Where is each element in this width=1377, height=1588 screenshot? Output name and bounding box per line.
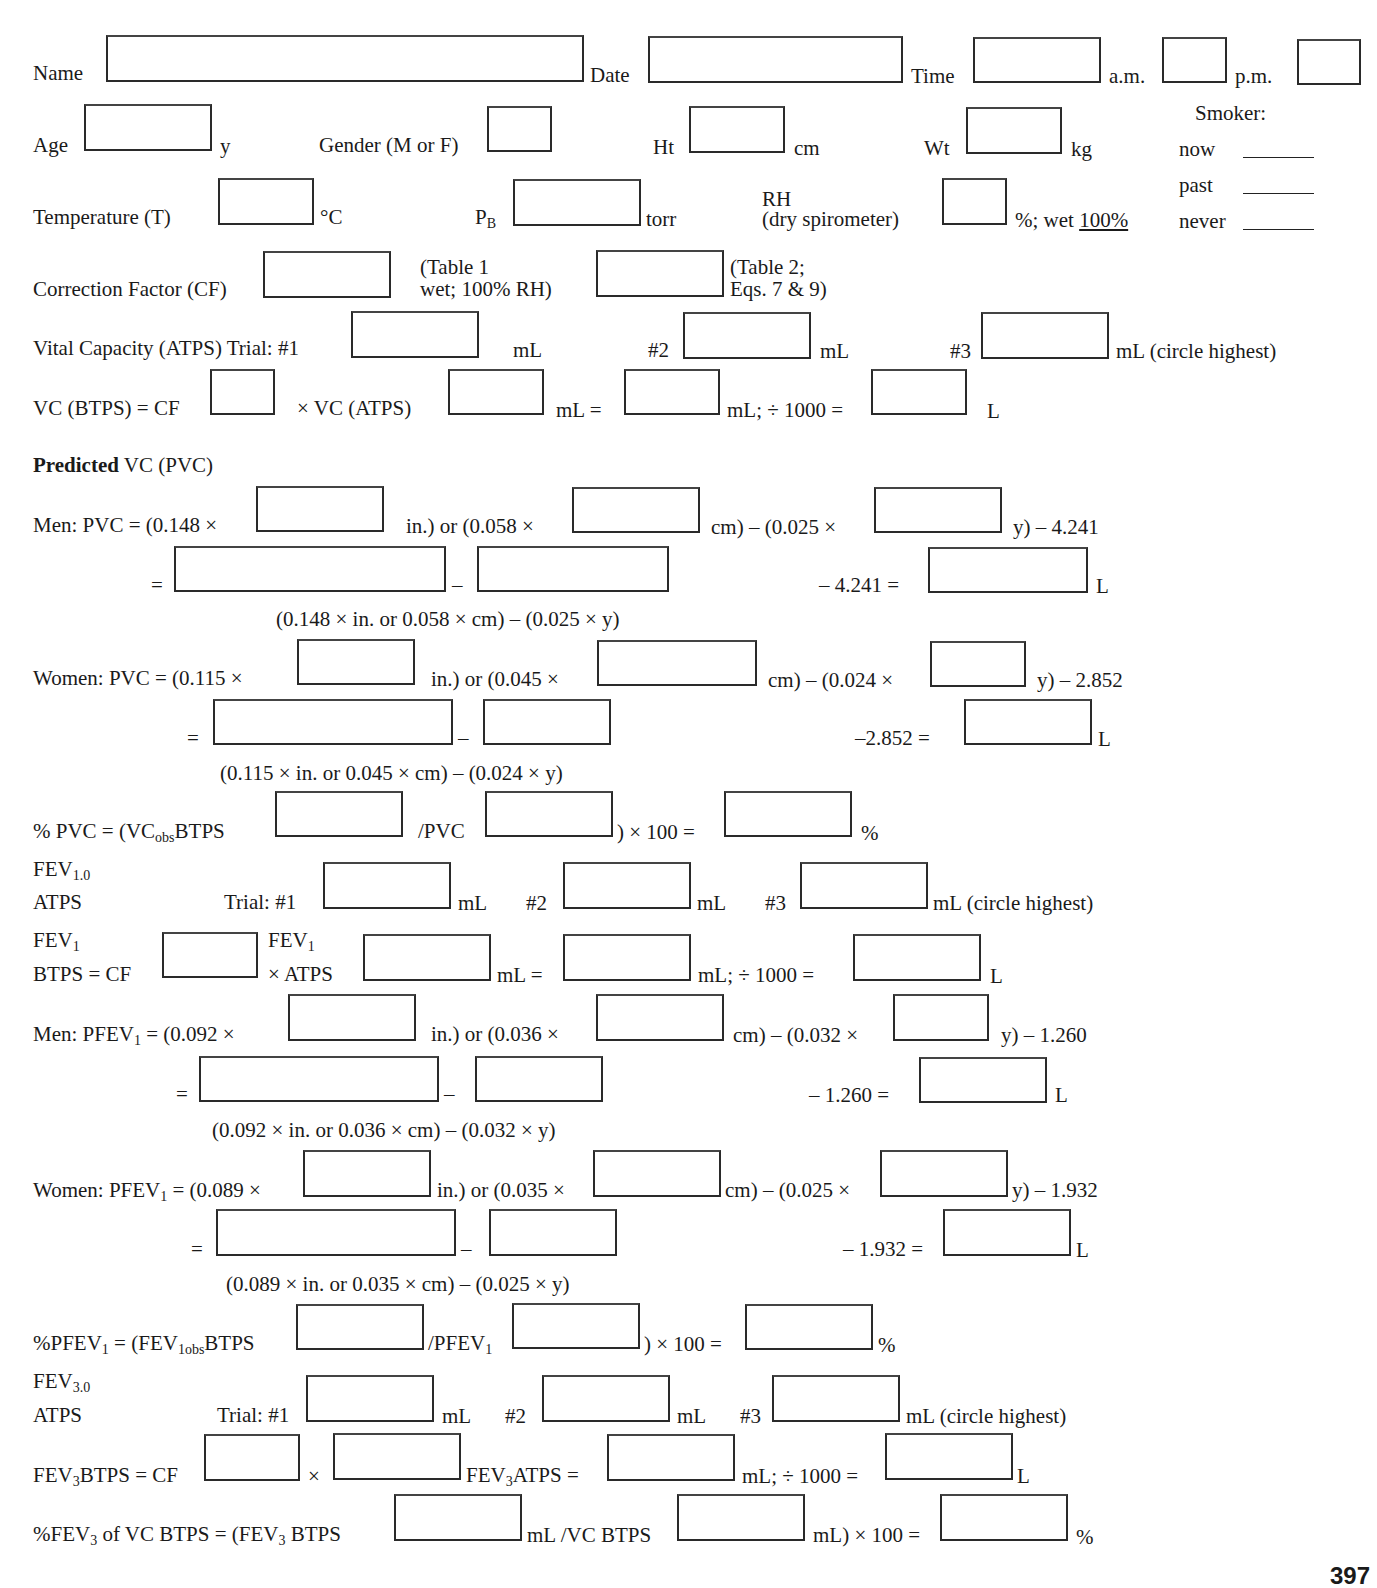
pct-fev3-vc-field[interactable] bbox=[677, 1494, 805, 1541]
fev3-atps-mid-text: FEV bbox=[466, 1463, 506, 1487]
fev3-btps-ml-field[interactable] bbox=[607, 1434, 735, 1481]
women-pvc-age-field[interactable] bbox=[930, 641, 1026, 687]
am-checkbox[interactable] bbox=[1162, 37, 1227, 83]
smoker-never-blank[interactable] bbox=[1243, 229, 1314, 230]
vc-atps-field[interactable] bbox=[448, 369, 544, 415]
pm-checkbox[interactable] bbox=[1297, 39, 1361, 85]
fev3-trial1-field[interactable] bbox=[306, 1375, 434, 1422]
pct-pvc-vcobs-field[interactable] bbox=[275, 791, 403, 837]
men-pvc-height-term-field[interactable] bbox=[174, 546, 446, 592]
cf-table1-field[interactable] bbox=[263, 251, 391, 298]
weight-field[interactable] bbox=[966, 107, 1062, 154]
date-field[interactable] bbox=[648, 36, 903, 83]
pct-fev3-lead-text: %FEV bbox=[33, 1522, 90, 1546]
fev1-trial2-field[interactable] bbox=[563, 862, 691, 909]
fev1-trial1-unit: mL bbox=[458, 891, 487, 915]
time-field[interactable] bbox=[973, 37, 1101, 83]
vc-trial3-field[interactable] bbox=[981, 312, 1109, 359]
fev1-btps-ml-field[interactable] bbox=[563, 934, 691, 981]
women-pfev1-cm-field[interactable] bbox=[593, 1150, 721, 1197]
fev3-title-text: FEV bbox=[33, 1369, 73, 1393]
fev1-btps-l-field[interactable] bbox=[853, 934, 981, 981]
women-pfev1-height-term-field[interactable] bbox=[216, 1209, 456, 1256]
men-pvc-inches-field[interactable] bbox=[256, 486, 384, 532]
fev3-btps-cf-field[interactable] bbox=[204, 1434, 300, 1481]
women-pvc-y: y) – 2.852 bbox=[1037, 668, 1123, 692]
pm-label: p.m. bbox=[1235, 64, 1272, 88]
name-field[interactable] bbox=[106, 35, 584, 82]
women-pvc-height-term-field[interactable] bbox=[213, 699, 453, 745]
pct-pfev1-pfev1-field[interactable] bbox=[512, 1303, 640, 1349]
fev1-divide-label: mL; ÷ 1000 = bbox=[698, 963, 814, 987]
fev1-btps-cf-field[interactable] bbox=[162, 932, 258, 978]
fev3-trial-label: Trial: #1 bbox=[217, 1403, 289, 1427]
men-pfev1-cm-field[interactable] bbox=[596, 994, 724, 1041]
cf-table2-field[interactable] bbox=[596, 250, 724, 297]
women-pvc-inches-field[interactable] bbox=[297, 639, 415, 685]
vc-divide-label: mL; ÷ 1000 = bbox=[727, 398, 843, 422]
pct-fev3-result-field[interactable] bbox=[940, 1494, 1068, 1541]
fev1-atps-field[interactable] bbox=[363, 934, 491, 981]
temperature-label: Temperature (T) bbox=[33, 205, 171, 229]
women-pfev1-result-field[interactable] bbox=[943, 1209, 1071, 1256]
men-pvc-result-field[interactable] bbox=[928, 547, 1088, 593]
temperature-unit: °C bbox=[320, 205, 342, 229]
women-pfev1-caption: (0.089 × in. or 0.035 × cm) – (0.025 × y… bbox=[226, 1272, 570, 1296]
men-pvc-cm-field[interactable] bbox=[572, 487, 700, 533]
fev3-atps-field[interactable] bbox=[333, 1433, 461, 1480]
men-pvc-age-term-field[interactable] bbox=[477, 546, 669, 592]
women-pvc-age-term-field[interactable] bbox=[483, 699, 611, 745]
men-pfev1-result-field[interactable] bbox=[919, 1057, 1047, 1103]
women-pvc-result-field[interactable] bbox=[964, 699, 1092, 745]
fev1-trial-label: Trial: #1 bbox=[224, 890, 296, 914]
vc-btps-label: VC (BTPS) = CF bbox=[33, 396, 180, 420]
fev3-btps-l-field[interactable] bbox=[885, 1433, 1013, 1480]
vc-btps-cf-field[interactable] bbox=[210, 369, 275, 415]
women-pvc-cm-field[interactable] bbox=[597, 640, 757, 686]
fev1-trial1-field[interactable] bbox=[323, 862, 451, 909]
weight-unit: kg bbox=[1071, 137, 1092, 161]
date-label: Date bbox=[590, 63, 630, 87]
pct-fev3-fev3-field[interactable] bbox=[394, 1494, 522, 1541]
fev1-trial3-field[interactable] bbox=[800, 862, 928, 909]
men-pfev1-age-term-field[interactable] bbox=[475, 1056, 603, 1102]
pb-field[interactable] bbox=[513, 179, 641, 226]
men-pvc-equals: = bbox=[151, 573, 163, 597]
pct-pfev1-fev1obs-field[interactable] bbox=[296, 1304, 424, 1350]
women-pfev1-age-term-field[interactable] bbox=[489, 1209, 617, 1256]
vc-btps-l-field[interactable] bbox=[871, 369, 967, 415]
pct-pfev1-unit: % bbox=[878, 1333, 896, 1357]
women-pvc-lead: Women: PVC = (0.115 × bbox=[33, 666, 243, 690]
vc-btps-ml-field[interactable] bbox=[624, 369, 720, 415]
vc-trial-label: Vital Capacity (ATPS) Trial: #1 bbox=[33, 336, 299, 360]
fev3-trial3-field[interactable] bbox=[772, 1375, 900, 1422]
pct-pvc-pvc-field[interactable] bbox=[485, 791, 613, 837]
smoker-now-blank[interactable] bbox=[1243, 157, 1314, 158]
vc-trial1-field[interactable] bbox=[351, 311, 479, 358]
vc-trial2-field[interactable] bbox=[683, 312, 811, 359]
women-pfev1-age-field[interactable] bbox=[880, 1150, 1008, 1197]
pct-pvc-result-field[interactable] bbox=[724, 791, 852, 837]
men-pvc-l: L bbox=[1096, 574, 1109, 598]
men-pfev1-lead-sub: 1 bbox=[134, 1033, 141, 1048]
men-pfev1-inches-field[interactable] bbox=[288, 994, 416, 1041]
name-label: Name bbox=[33, 61, 83, 85]
height-unit: cm bbox=[794, 136, 820, 160]
men-pfev1-height-term-field[interactable] bbox=[199, 1056, 439, 1102]
men-pfev1-age-field[interactable] bbox=[893, 994, 989, 1041]
fev3-trial2-field[interactable] bbox=[542, 1375, 670, 1422]
pct-pfev1-result-field[interactable] bbox=[745, 1304, 873, 1350]
fev1-atps-top: FEV1 bbox=[268, 928, 315, 952]
women-pfev1-in-or: in.) or (0.035 × bbox=[437, 1178, 565, 1202]
smoker-past-blank[interactable] bbox=[1243, 193, 1314, 194]
rh-field[interactable] bbox=[942, 178, 1007, 225]
age-field[interactable] bbox=[84, 104, 212, 151]
temperature-field[interactable] bbox=[218, 178, 314, 225]
cf-note1-line1: (Table 1 bbox=[420, 255, 489, 279]
pct-fev3-ml-vc: mL /VC BTPS bbox=[527, 1523, 651, 1547]
vc-trial2-label: #2 bbox=[648, 338, 669, 362]
men-pvc-age-field[interactable] bbox=[874, 487, 1002, 533]
height-field[interactable] bbox=[689, 106, 785, 153]
women-pfev1-inches-field[interactable] bbox=[303, 1150, 431, 1197]
gender-field[interactable] bbox=[487, 106, 552, 152]
